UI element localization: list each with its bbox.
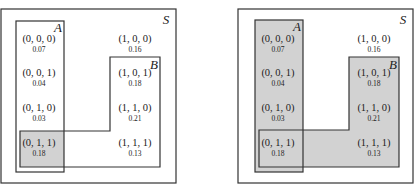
cell-tuple: (0, 0, 0) (261, 33, 295, 45)
set-a-label: A (292, 19, 301, 34)
cell-tuple: (1, 0, 0) (357, 33, 391, 45)
cell-prob: 0.13 (367, 149, 380, 158)
cell-tuple: (0, 1, 1) (22, 137, 56, 149)
cell-tuple: (1, 0, 1) (118, 67, 152, 79)
cell-prob: 0.21 (367, 114, 380, 123)
right-panel: S A B (0, 0, 0) 0.07 (0, 0, 1) 0.04 (0, … (238, 9, 413, 183)
cell-prob: 0.04 (32, 79, 45, 88)
cell-prob: 0.07 (32, 45, 45, 54)
cell-tuple: (0, 1, 1) (261, 137, 295, 149)
cell-tuple: (1, 1, 1) (118, 137, 152, 149)
cell-tuple: (1, 1, 0) (357, 102, 391, 114)
cell-tuple: (1, 0, 1) (357, 67, 391, 79)
cell-prob: 0.16 (367, 45, 380, 54)
cell-tuple: (0, 0, 1) (22, 67, 56, 79)
cell-tuple: (1, 0, 0) (118, 33, 152, 45)
cell-prob: 0.18 (128, 79, 141, 88)
cell-prob: 0.18 (367, 79, 380, 88)
venn-diagrams: S A B (0, 0, 0) 0.07 (0, 0, 1) 0.04 (0, … (0, 0, 416, 190)
cell-tuple: (0, 0, 0) (22, 33, 56, 45)
cell-tuple: (0, 0, 1) (261, 67, 295, 79)
cell-prob: 0.18 (32, 149, 45, 158)
cell-prob: 0.07 (271, 45, 284, 54)
cell-tuple: (0, 1, 0) (261, 102, 295, 114)
cell-tuple: (1, 1, 1) (357, 137, 391, 149)
cell-prob: 0.03 (32, 114, 45, 123)
left-panel: S A B (0, 0, 0) 0.07 (0, 0, 1) 0.04 (0, … (1, 9, 176, 183)
cell-tuple: (1, 1, 0) (118, 102, 152, 114)
cell-prob: 0.18 (271, 149, 284, 158)
cell-tuple: (0, 1, 0) (22, 102, 56, 114)
cell-prob: 0.13 (128, 149, 141, 158)
cell-prob: 0.16 (128, 45, 141, 54)
cell-prob: 0.21 (128, 114, 141, 123)
cell-prob: 0.03 (271, 114, 284, 123)
universe-label: S (400, 12, 407, 27)
universe-label: S (163, 12, 170, 27)
cell-prob: 0.04 (271, 79, 284, 88)
